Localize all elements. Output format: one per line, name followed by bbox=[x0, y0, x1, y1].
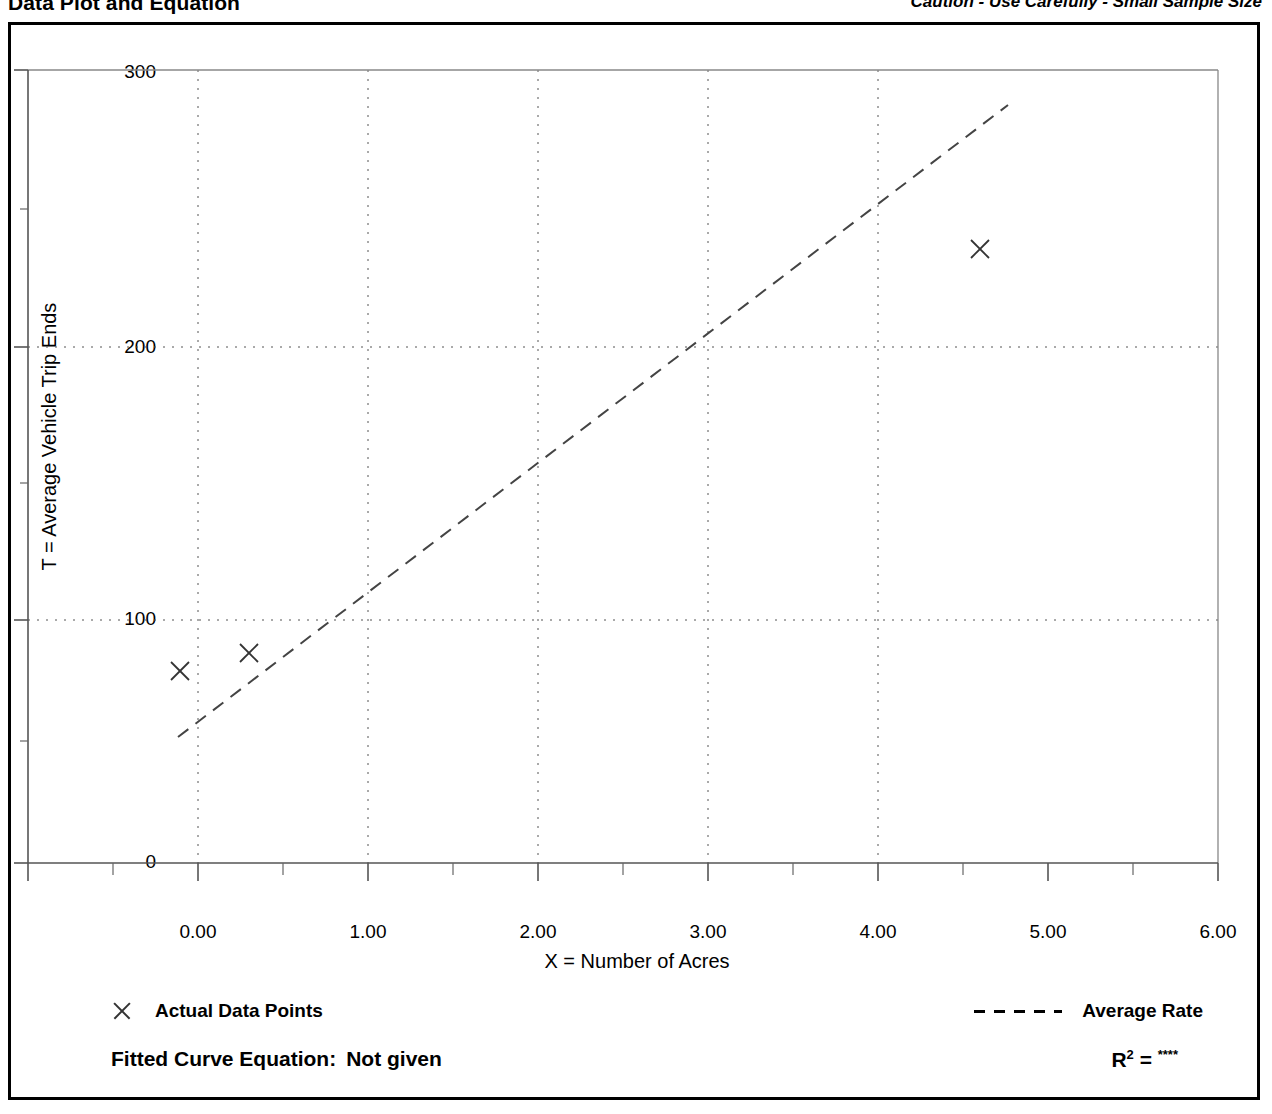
data-point-3 bbox=[971, 240, 989, 258]
plot-area: T = Average Vehicle Trip Ends 300 200 10… bbox=[11, 25, 1263, 1103]
plot-box bbox=[28, 70, 1218, 863]
fitted-curve-label: Fitted Curve Equation: bbox=[111, 1047, 336, 1070]
page-title: Data Plot and Equation bbox=[8, 0, 240, 15]
fitted-curve-value: Not given bbox=[346, 1047, 442, 1070]
chart-frame: T = Average Vehicle Trip Ends 300 200 10… bbox=[8, 22, 1260, 1100]
r-squared-number: **** bbox=[1158, 1047, 1178, 1062]
caution-note: Caution - Use Carefully - Small Sample S… bbox=[911, 0, 1262, 12]
legend-label-data-points: Actual Data Points bbox=[155, 1000, 323, 1022]
r-symbol: R bbox=[1111, 1048, 1126, 1071]
equation-row: Fitted Curve Equation:Not given R2 = ***… bbox=[11, 1047, 1263, 1089]
plot-canvas bbox=[11, 25, 1263, 1103]
r-equals-sign: = bbox=[1140, 1048, 1152, 1071]
y-minor-ticks bbox=[20, 209, 28, 741]
r-squared-value: R2 = **** bbox=[1111, 1047, 1178, 1072]
fitted-curve-equation: Fitted Curve Equation:Not given bbox=[111, 1047, 442, 1071]
data-point-markers bbox=[171, 240, 989, 680]
grid-horizontal bbox=[28, 347, 1218, 620]
y-major-ticks bbox=[14, 70, 28, 863]
x-minor-ticks bbox=[113, 863, 1133, 875]
grid-vertical bbox=[198, 70, 878, 863]
legend-label-average-rate: Average Rate bbox=[1082, 1000, 1203, 1022]
legend-item-data-points: Actual Data Points bbox=[111, 1000, 323, 1022]
r-exponent: 2 bbox=[1127, 1047, 1134, 1062]
average-rate-trendline bbox=[178, 105, 1008, 737]
data-point-1 bbox=[171, 662, 189, 680]
page-header: Data Plot and Equation Caution - Use Car… bbox=[0, 0, 1272, 20]
dashed-line-icon bbox=[974, 1010, 1062, 1013]
x-marker-icon bbox=[111, 1000, 133, 1022]
legend-item-average-rate: Average Rate bbox=[974, 1000, 1203, 1022]
data-point-2 bbox=[240, 644, 258, 662]
chart-legend: Actual Data Points Average Rate bbox=[11, 1000, 1263, 1040]
x-axis-title: X = Number of Acres bbox=[11, 950, 1263, 973]
